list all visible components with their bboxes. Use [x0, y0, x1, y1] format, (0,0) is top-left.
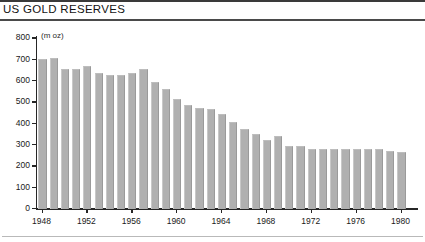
y-tick-label: 500 [2, 96, 30, 106]
x-tick-label: 1980 [381, 216, 421, 226]
bar [240, 129, 248, 209]
y-tick-label: 0 [2, 203, 30, 213]
bar [263, 140, 271, 209]
x-tick-label: 1956 [111, 216, 151, 226]
x-tick [311, 209, 312, 213]
bar [117, 75, 125, 209]
bar [386, 151, 394, 209]
x-tick [356, 209, 357, 213]
y-tick [32, 80, 36, 81]
bar [353, 149, 361, 209]
y-axis-unit-label: (m oz) [41, 31, 64, 40]
x-tick-label: 1972 [291, 216, 331, 226]
bar [173, 99, 181, 209]
x-tick [221, 209, 222, 213]
y-axis-line [36, 36, 37, 209]
bar [50, 58, 58, 209]
bar [184, 105, 192, 209]
bar [285, 146, 293, 209]
bar [83, 66, 91, 209]
bar [218, 114, 226, 209]
bottom-divider [2, 236, 423, 237]
y-tick-label: 800 [2, 32, 30, 42]
y-tick-label: 700 [2, 54, 30, 64]
y-tick-label: 400 [2, 118, 30, 128]
y-tick-label: 100 [2, 182, 30, 192]
x-tick-label: 1968 [246, 216, 286, 226]
y-tick-label: 600 [2, 75, 30, 85]
x-tick-label: 1964 [201, 216, 241, 226]
bar [274, 136, 282, 209]
bar [341, 149, 349, 209]
x-tick-label: 1960 [156, 216, 196, 226]
y-tick-label: 200 [2, 160, 30, 170]
bar [139, 69, 147, 209]
bar [296, 146, 304, 209]
y-tick [32, 187, 36, 188]
y-axis-labels: 0100200300400500600700800 [0, 0, 30, 242]
bar [38, 59, 46, 209]
bar [308, 149, 316, 209]
x-tick [176, 209, 177, 213]
y-tick [32, 208, 36, 209]
bar [106, 75, 114, 209]
y-tick-label: 300 [2, 139, 30, 149]
bar [151, 82, 159, 209]
y-tick [32, 165, 36, 166]
y-tick [32, 59, 36, 60]
bar [397, 152, 405, 209]
bar [207, 109, 215, 209]
y-tick [32, 101, 36, 102]
bar [319, 149, 327, 209]
x-tick [42, 209, 43, 213]
bar [252, 134, 260, 209]
bar [61, 69, 69, 209]
bar [128, 73, 136, 209]
y-tick [32, 123, 36, 124]
bar [364, 149, 372, 209]
x-tick [86, 209, 87, 213]
y-tick [32, 144, 36, 145]
bar [229, 122, 237, 209]
x-tick [131, 209, 132, 213]
bar [95, 73, 103, 209]
x-tick [266, 209, 267, 213]
x-tick-label: 1952 [66, 216, 106, 226]
bar [162, 89, 170, 209]
bar [195, 108, 203, 209]
bar [72, 69, 80, 209]
bar-chart-plot: (m oz) 0100200300400500600700800 1948195… [0, 0, 425, 242]
bar [375, 149, 383, 209]
y-tick [32, 37, 36, 38]
x-tick-label: 1976 [336, 216, 376, 226]
x-tick [401, 209, 402, 213]
x-tick-label: 1948 [22, 216, 62, 226]
chart-page: US GOLD RESERVES (m oz) 0100200300400500… [0, 0, 425, 242]
bar [330, 149, 338, 209]
